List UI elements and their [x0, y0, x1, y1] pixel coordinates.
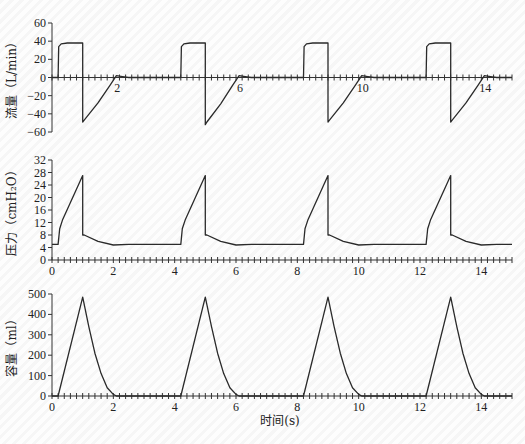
x-tick-label: 8	[294, 400, 300, 414]
y-tick-label: 40	[34, 34, 46, 48]
y-tick-label: 28	[34, 166, 46, 180]
x-tick-label: 4	[172, 264, 178, 278]
x-tick-label: 2	[114, 81, 120, 95]
y-tick-label: −60	[27, 125, 46, 139]
x-tick-label: 2	[110, 400, 116, 414]
flow-panel: 6040200−20−40−60261014流量（L/min）	[5, 16, 512, 139]
y-tick-label: 500	[28, 287, 46, 301]
y-tick-label: 100	[28, 369, 46, 383]
x-tick-label: 10	[353, 264, 365, 278]
x-tick-label: 0	[49, 264, 55, 278]
flow-y-axis-label: 流量（L/min）	[5, 36, 19, 119]
x-axis-label: 时间(s)	[260, 414, 300, 428]
y-tick-label: 24	[34, 178, 46, 192]
x-tick-label: 4	[172, 400, 178, 414]
x-tick-label: 6	[233, 264, 239, 278]
y-tick-label: 200	[28, 348, 46, 362]
volume-y-axis-label: 容量（ml）	[4, 313, 19, 376]
y-tick-label: 12	[34, 216, 46, 230]
x-tick-label: 10	[353, 400, 365, 414]
volume-panel: 010020030040050002468101214容量（ml）	[4, 287, 512, 414]
pressure-trace	[52, 176, 512, 245]
pressure-y-axis-label: 压力（cmH₂O）	[5, 164, 19, 255]
x-tick-label: 0	[49, 400, 55, 414]
chart-figure: 6040200−20−40−60261014流量（L/min） 04812162…	[0, 0, 525, 444]
y-tick-label: 0	[40, 389, 46, 403]
y-tick-label: 8	[40, 228, 46, 242]
x-tick-label: 6	[233, 400, 239, 414]
x-tick-label: 14	[479, 81, 491, 95]
y-tick-label: 60	[34, 16, 46, 30]
x-tick-label: 14	[475, 264, 487, 278]
y-tick-label: 20	[34, 52, 46, 66]
y-tick-label: 0	[40, 71, 46, 85]
x-tick-label: 14	[475, 400, 487, 414]
y-tick-label: 16	[34, 203, 46, 217]
y-tick-label: 20	[34, 191, 46, 205]
pressure-panel: 04812162024283202468101214压力（cmH₂O）	[5, 153, 512, 278]
y-tick-label: 4	[40, 241, 46, 255]
y-tick-label: 32	[34, 153, 46, 167]
x-tick-label: 6	[237, 81, 243, 95]
x-tick-label: 2	[110, 264, 116, 278]
flow-trace	[52, 43, 512, 125]
y-tick-label: 0	[40, 253, 46, 267]
y-tick-label: 300	[28, 328, 46, 342]
x-tick-label: 12	[414, 264, 426, 278]
x-tick-label: 10	[357, 81, 369, 95]
y-tick-label: 400	[28, 307, 46, 321]
y-tick-label: −40	[27, 107, 46, 121]
ventilator-waveforms: 6040200−20−40−60261014流量（L/min） 04812162…	[0, 0, 525, 444]
volume-trace	[52, 297, 512, 396]
x-tick-label: 8	[294, 264, 300, 278]
x-tick-label: 12	[414, 400, 426, 414]
y-tick-label: −20	[27, 89, 46, 103]
